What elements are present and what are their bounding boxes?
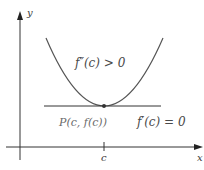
second-derivative-condition: f″(c) > 0 <box>75 57 125 69</box>
y-axis-arrow-icon <box>17 11 23 20</box>
x-axis-label: x <box>197 153 203 163</box>
point-p <box>102 104 106 108</box>
point-label: P(c, f(c)) <box>59 117 107 128</box>
curve-concave-up <box>46 38 163 106</box>
x-axis-arrow-icon <box>194 144 203 150</box>
graph-canvas <box>0 0 204 170</box>
tick-label-c: c <box>101 153 107 163</box>
y-axis-label: y <box>27 8 33 18</box>
first-derivative-condition: f′(c) = 0 <box>137 116 186 128</box>
